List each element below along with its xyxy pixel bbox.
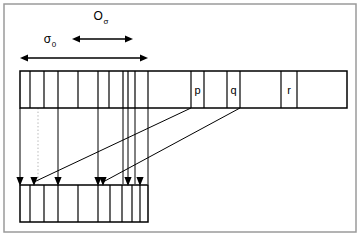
offset-sigma-label: Oσ: [94, 9, 109, 26]
lower-array-outline: [20, 185, 148, 222]
offset-sigma-arrowhead-left: [72, 35, 80, 42]
sigma-zero-label: σ0: [44, 32, 57, 49]
upper-array-cell-label-r: r: [287, 84, 291, 96]
sigma-zero-label-sub: 0: [52, 40, 57, 49]
upper-array-cell-label-p: p: [194, 84, 200, 96]
diagonal-from-q: [103, 108, 240, 182]
sigma-zero-arrowhead-right: [140, 54, 148, 61]
upper-array: pqr: [20, 71, 347, 108]
sigma-zero-label-main: σ: [44, 32, 52, 46]
diagram-figure: Oσσ0 pqr: [0, 0, 361, 237]
dimension-annotations: Oσσ0: [20, 9, 148, 62]
mapping-connectors: [20, 108, 240, 184]
offset-sigma-label-main: O: [94, 9, 103, 23]
diagram-canvas: Oσσ0 pqr: [0, 0, 361, 237]
lower-array: [20, 185, 148, 222]
upper-array-outline: [20, 71, 347, 108]
upper-array-cell-label-q: q: [230, 84, 236, 96]
sigma-zero-arrowhead-left: [20, 54, 28, 61]
offset-sigma-label-sub: σ: [103, 17, 108, 26]
offset-sigma-arrowhead-right: [125, 35, 133, 42]
